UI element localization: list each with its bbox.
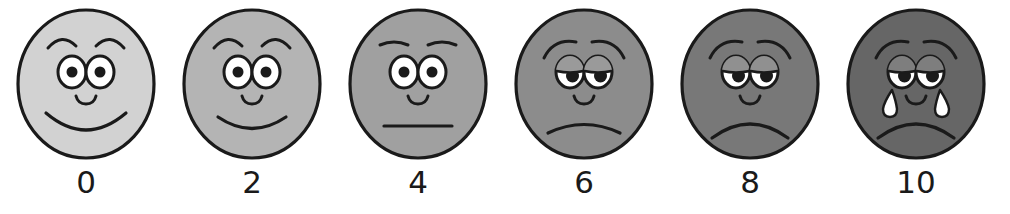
face-icon-6	[504, 0, 664, 160]
pupil-right	[95, 67, 106, 78]
pupil-left	[67, 67, 78, 78]
eye-left	[888, 56, 916, 88]
eyelid-line-right	[585, 71, 612, 73]
pupil-left	[233, 67, 244, 78]
face-icon-4	[338, 0, 498, 160]
face-item-6[interactable]: 6	[504, 0, 664, 214]
face-icon-2	[172, 0, 332, 160]
face-item-2[interactable]: 2	[172, 0, 332, 214]
face-label-0: 0	[6, 162, 166, 202]
face-label-4: 4	[338, 162, 498, 202]
eyelid-line-left	[557, 71, 584, 73]
eye-left	[722, 56, 750, 88]
eyelid-line-right	[751, 71, 778, 73]
face-item-8[interactable]: 8	[670, 0, 830, 214]
eye-left	[390, 56, 418, 88]
face-icon-10	[836, 0, 996, 160]
face-head	[682, 10, 818, 158]
face-item-10[interactable]: 10	[836, 0, 996, 214]
face-head	[350, 10, 486, 158]
eye-left	[58, 56, 86, 88]
pupil-left	[399, 67, 410, 78]
eyelid-line-left	[889, 71, 916, 73]
eye-left	[224, 56, 252, 88]
face-label-8: 8	[670, 162, 830, 202]
face-icon-8	[670, 0, 830, 160]
eye-right	[584, 56, 612, 88]
eye-left	[556, 56, 584, 88]
eyelid-line-left	[723, 71, 750, 73]
face-head	[848, 10, 984, 158]
eye-right	[86, 56, 114, 88]
face-label-10: 10	[836, 162, 996, 202]
face-icon-0	[6, 0, 166, 160]
face-label-2: 2	[172, 162, 332, 202]
pupil-right	[261, 67, 272, 78]
eyelid-line-right	[917, 71, 944, 73]
eye-right	[252, 56, 280, 88]
face-item-4[interactable]: 4	[338, 0, 498, 214]
eye-right	[418, 56, 446, 88]
face-head	[184, 10, 320, 158]
eye-right	[916, 56, 944, 88]
face-head	[18, 10, 154, 158]
face-head	[516, 10, 652, 158]
eye-right	[750, 56, 778, 88]
face-label-6: 6	[504, 162, 664, 202]
faces-pain-rating-scale: 0246810	[0, 0, 1010, 214]
face-item-0[interactable]: 0	[6, 0, 166, 214]
pupil-right	[427, 67, 438, 78]
